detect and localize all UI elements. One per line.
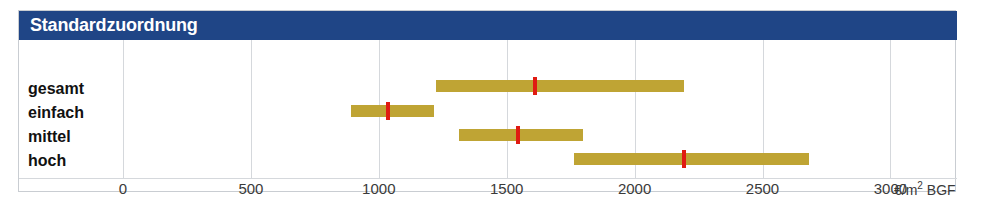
axis-tick-label: 500: [238, 180, 263, 197]
category-label-mittel: mittel: [28, 128, 71, 146]
category-label-hoch: hoch: [28, 152, 66, 170]
range-bar-mittel: [459, 129, 583, 141]
category-label-einfach: einfach: [28, 104, 84, 122]
gridline: [507, 40, 508, 178]
unit-text: €/m: [894, 182, 917, 198]
gridline: [123, 40, 124, 178]
panel-title-bar: Standardzuordnung: [19, 11, 957, 40]
axis-tick-label: 2000: [618, 180, 651, 197]
range-bar-hoch: [574, 153, 808, 165]
axis-tick-label: 1000: [362, 180, 395, 197]
range-bar-einfach: [351, 105, 434, 117]
plot-area: gesamteinfachmittelhoch 0500100015002000…: [19, 40, 957, 191]
axis-tick-label: 0: [119, 180, 127, 197]
gridline: [890, 40, 891, 178]
chart-panel: Standardzuordnung gesamteinfachmittelhoc…: [18, 10, 956, 192]
panel-title: Standardzuordnung: [30, 15, 198, 36]
median-marker-einfach: [386, 102, 390, 120]
median-marker-mittel: [516, 126, 520, 144]
axis-tick-label: 1500: [490, 180, 523, 197]
gridline: [251, 40, 252, 178]
unit-suffix: BGF: [923, 182, 956, 198]
axis-tick-label: 2500: [746, 180, 779, 197]
range-bar-gesamt: [436, 80, 684, 92]
x-axis-unit-label: €/m2 BGF: [894, 180, 956, 198]
category-label-gesamt: gesamt: [28, 80, 84, 98]
axis-baseline: [19, 178, 957, 179]
median-marker-gesamt: [533, 77, 537, 95]
median-marker-hoch: [682, 150, 686, 168]
